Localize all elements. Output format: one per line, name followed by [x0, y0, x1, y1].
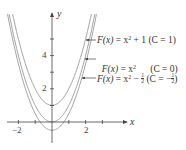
- ann3-minus: −: [131, 74, 141, 84]
- ann1-eq: = x: [113, 35, 128, 45]
- annotation-c0: F(x) = x2 (C = 0): [97, 54, 178, 74]
- x-axis-label: x: [130, 117, 134, 127]
- x-tick-label-2: 2: [84, 126, 89, 135]
- ann1-lhs: F(x): [97, 35, 113, 45]
- ann1-rest: + 1 (C = 1): [131, 35, 176, 45]
- ann3-c-close: ): [174, 74, 177, 84]
- axis-ticks: [18, 39, 102, 124]
- y-tick-label-2: 2: [42, 84, 47, 93]
- x-tick-label-neg2: −2: [12, 126, 22, 135]
- ann3-lhs: F(x): [97, 74, 113, 84]
- annotation-c1: F(x) = x2 + 1 (C = 1): [97, 35, 176, 45]
- y-axis-label: y: [57, 9, 61, 19]
- annotation-cneghalf: F(x) = x2 − 12 (C = −12): [97, 73, 177, 84]
- ann3-eq: = x: [113, 74, 128, 84]
- ann3-c-open: (C = −: [144, 74, 171, 84]
- y-tick-label-4: 4: [42, 51, 47, 60]
